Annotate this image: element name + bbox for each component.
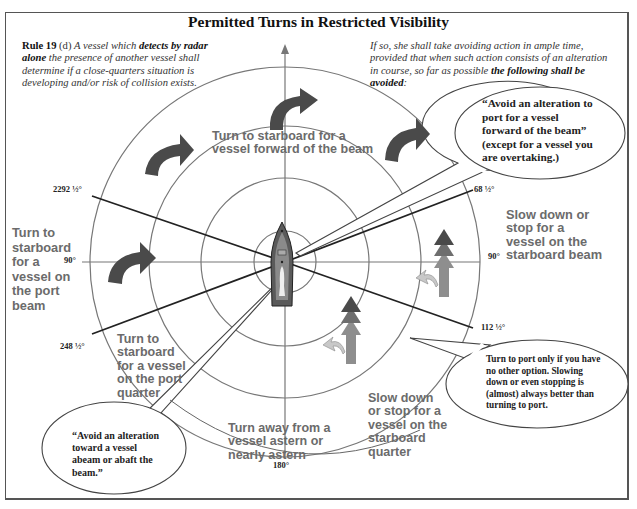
sector-starboard-quarter-label: Slow down or stop for a vessel on the st… [368,392,448,459]
rule-label: Rule 19 [22,40,56,51]
bearing-label-090-starboard: 90° [488,251,500,261]
bubble-port-only-text: Turn to port only if you have no other o… [486,354,604,412]
rule-text-part1: A vessel which [74,40,139,51]
sector-port-beam-label: Turn to starboard for a vessel on the po… [12,226,72,314]
rule-19-text: Rule 19 (d) A vessel which detects by ra… [22,40,222,90]
avoid-text: If so, she shall take avoiding action in… [370,40,615,90]
sector-port-quarter-label: Turn to starboard for a vessel on the po… [117,333,187,400]
turn-arrow-forward-left [145,134,194,176]
bearing-label-248: 248 ½° [60,341,85,351]
turn-arrow-forward-top [270,88,318,130]
slow-down-arrows-beam [416,229,454,297]
turn-arrow-port-beam [108,242,156,284]
bubble-abeam-text: “Avoid an alteration toward a vessel abe… [72,430,167,479]
bubble-forward-port-text: “Avoid an alteration to port for a vesse… [482,97,597,165]
bearing-line-292 [92,196,285,262]
rule-clause: (d) [56,40,74,51]
bearing-label-292: 2292 ½° [53,184,82,194]
sector-astern-label: Turn away from a vessel astern or nearly… [228,422,363,462]
bearing-label-068: 68 ½° [474,184,494,194]
avoid-text-part2: : [404,77,408,88]
bearing-label-090-port: 90° [64,255,76,265]
diagram-title: Permitted Turns in Restricted Visibility [0,13,637,31]
bearing-label-180: 180° [273,460,289,470]
slow-down-arrows-quarter [323,296,361,364]
heading-arrowhead [281,44,289,54]
sector-forward-label: Turn to starboard for a vessel forward o… [212,130,382,157]
rule-text-part2: the presence of another vessel shall det… [22,52,199,88]
sector-starboard-beam-label: Slow down or stop for a vessel on the st… [506,208,606,262]
bearing-label-112: 112 ½° [481,322,505,332]
own-vessel-icon [271,222,293,306]
